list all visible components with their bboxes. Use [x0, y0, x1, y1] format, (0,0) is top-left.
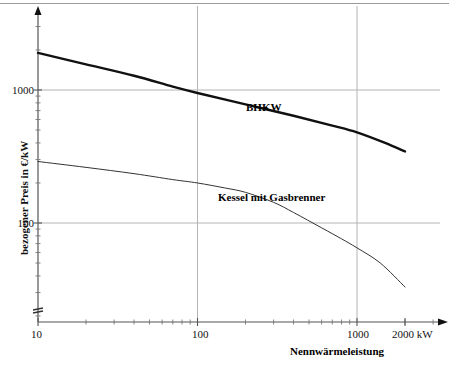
axis-break-marker-upper — [33, 308, 43, 310]
x-tick-label-10: 10 — [31, 328, 42, 340]
y-axis-title: bezogener Preis in €/kW — [18, 141, 30, 255]
x-axis-title: Nennwärmeleistung — [290, 345, 384, 357]
series-curve-kessel — [38, 162, 405, 288]
y-tick-label-1000: 1000 — [6, 84, 34, 96]
chart-canvas — [0, 0, 449, 365]
series-label-bhkw: BHKW — [246, 101, 281, 113]
x-tick-label-1000: 1000 — [347, 328, 369, 340]
series-curve-bhkw — [38, 53, 405, 152]
x-tick-label-100: 100 — [192, 328, 209, 340]
x-tick-label-2000: 2000 kW — [392, 328, 433, 340]
series-label-kessel: Kessel mit Gasbrenner — [218, 191, 325, 203]
axis-break-marker-lower — [33, 311, 43, 313]
x-axis-arrow-icon — [438, 319, 448, 326]
y-axis-arrow-icon — [35, 6, 42, 15]
chart-figure: 1000 100 bezogener Preis in €/kW 10 100 … — [0, 0, 449, 365]
